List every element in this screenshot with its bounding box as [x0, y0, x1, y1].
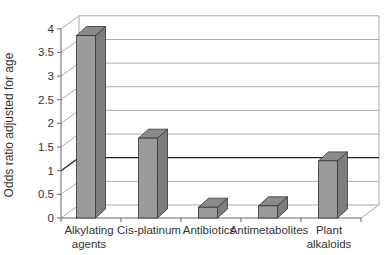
x-tick-label: alkaloids	[307, 238, 352, 250]
y-tick-label: 3.5	[38, 46, 54, 58]
y-tick-label: 4	[48, 23, 55, 35]
y-tick-label: 3	[48, 70, 54, 82]
x-tick-label: agents	[72, 238, 107, 250]
x-tick-label: Cis-platinum	[117, 224, 181, 236]
y-tick-label: 1.5	[38, 141, 54, 153]
bar-front	[259, 206, 278, 218]
y-axis-title: Odds ratio adjusted for age	[2, 52, 16, 197]
bar-front	[319, 161, 338, 218]
bar-cis-platinum	[139, 129, 168, 218]
x-axis-labels: AlkylatingagentsCis-platinumAntibioticsA…	[64, 224, 351, 250]
bar-front	[139, 138, 158, 218]
bar-side	[158, 129, 168, 218]
bar-antimetabolites	[259, 197, 288, 218]
x-tick-label: Plant	[316, 224, 343, 236]
y-tick-label: 0.5	[38, 188, 54, 200]
floor-edge	[361, 205, 379, 218]
bar-side	[96, 27, 106, 218]
bar-chart: 00.511.522.533.54 AlkylatingagentsCis-pl…	[0, 0, 391, 255]
x-tick-label: Alkylating	[64, 224, 113, 236]
y-tick-label: 0	[48, 212, 54, 224]
y-tick-label: 2	[48, 117, 54, 129]
bar-front	[77, 36, 96, 218]
x-tick-label: Antimetabolites	[230, 224, 309, 236]
side-wall-line	[61, 16, 79, 29]
bar-side	[338, 152, 348, 218]
y-tick-label: 2.5	[38, 94, 54, 106]
bar-front	[199, 207, 218, 218]
bar-alkylating-agents	[77, 27, 106, 218]
bars	[77, 27, 348, 218]
x-tick-label: Antibiotics	[183, 224, 236, 236]
bar-antibiotics	[199, 198, 228, 218]
bar-plant-alkaloids	[319, 152, 348, 218]
y-tick-label: 1	[48, 165, 54, 177]
chart-canvas: 00.511.522.533.54 AlkylatingagentsCis-pl…	[0, 0, 391, 255]
